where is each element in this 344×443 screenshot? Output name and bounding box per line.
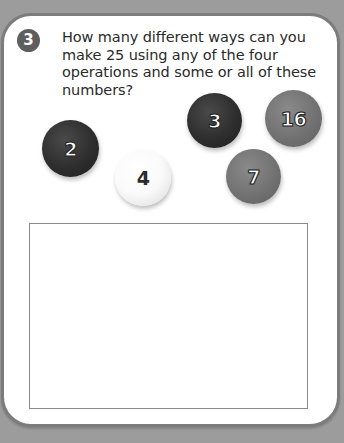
number-ball-2: 2 xyxy=(42,120,99,177)
number-ball-4: 4 xyxy=(115,150,171,206)
question-number-badge: 3 xyxy=(17,29,40,52)
question-text: How many different ways can you make 25 … xyxy=(62,29,332,99)
ball-label: 2 xyxy=(64,138,77,160)
ball-label: 3 xyxy=(208,110,221,132)
ball-label: 4 xyxy=(137,167,150,189)
number-ball-3: 3 xyxy=(187,93,242,148)
number-ball-16: 16 xyxy=(265,90,322,147)
answer-box[interactable] xyxy=(29,223,308,409)
number-ball-7: 7 xyxy=(226,149,281,204)
ball-label: 7 xyxy=(247,166,260,188)
ball-label: 16 xyxy=(281,108,306,130)
